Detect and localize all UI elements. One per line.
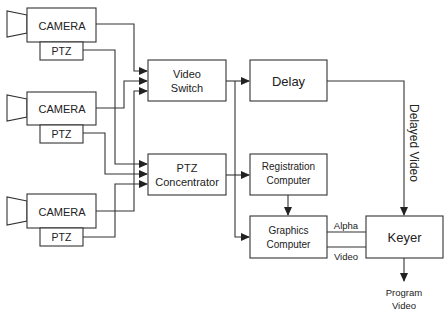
alpha-label: Alpha [334,220,359,231]
video-label: Video [334,251,358,262]
delay-block: Delay [250,60,327,101]
ptz-concentrator-block: PTZ Concentrator [148,154,226,195]
keyer-label: Keyer [388,230,423,245]
camera-lens-icon [7,197,27,225]
ptz-label: PTZ [52,45,72,57]
block-diagram: CAMERA PTZ CAMERA PTZ CAMERA PTZ [0,0,445,312]
camera-label: CAMERA [38,103,86,115]
video-switch-block: Video Switch [148,60,226,101]
program-video-label-2: Video [392,300,416,311]
program-video-label-1: Program [386,287,423,298]
delayed-video-label: Delayed Video [407,104,421,182]
graphics-label-2: Computer [267,239,312,250]
ptz-concentrator-label-2: Concentrator [155,176,219,188]
delay-label: Delay [272,74,306,89]
registration-computer-block: Registration Computer [250,154,327,195]
video-switch-label-2: Switch [171,82,203,94]
camera-label: CAMERA [38,206,86,218]
graphics-computer-block: Graphics Computer [250,216,327,258]
video-switch-label-1: Video [173,68,201,80]
camera-lens-icon [7,11,27,37]
ptz-label: PTZ [52,128,72,140]
camera-3: CAMERA PTZ [7,194,96,246]
camera-1: CAMERA PTZ [7,8,96,60]
graphics-label-1: Graphics [268,225,308,236]
registration-label-2: Computer [267,175,312,186]
ptz-label: PTZ [52,231,72,243]
ptz-concentrator-label-1: PTZ [177,162,198,174]
camera-lens-icon [7,95,27,121]
keyer-block: Keyer [366,216,443,258]
registration-label-1: Registration [262,161,315,172]
connector-lines [83,24,404,281]
camera-label: CAMERA [38,20,86,32]
camera-2: CAMERA PTZ [7,92,96,143]
